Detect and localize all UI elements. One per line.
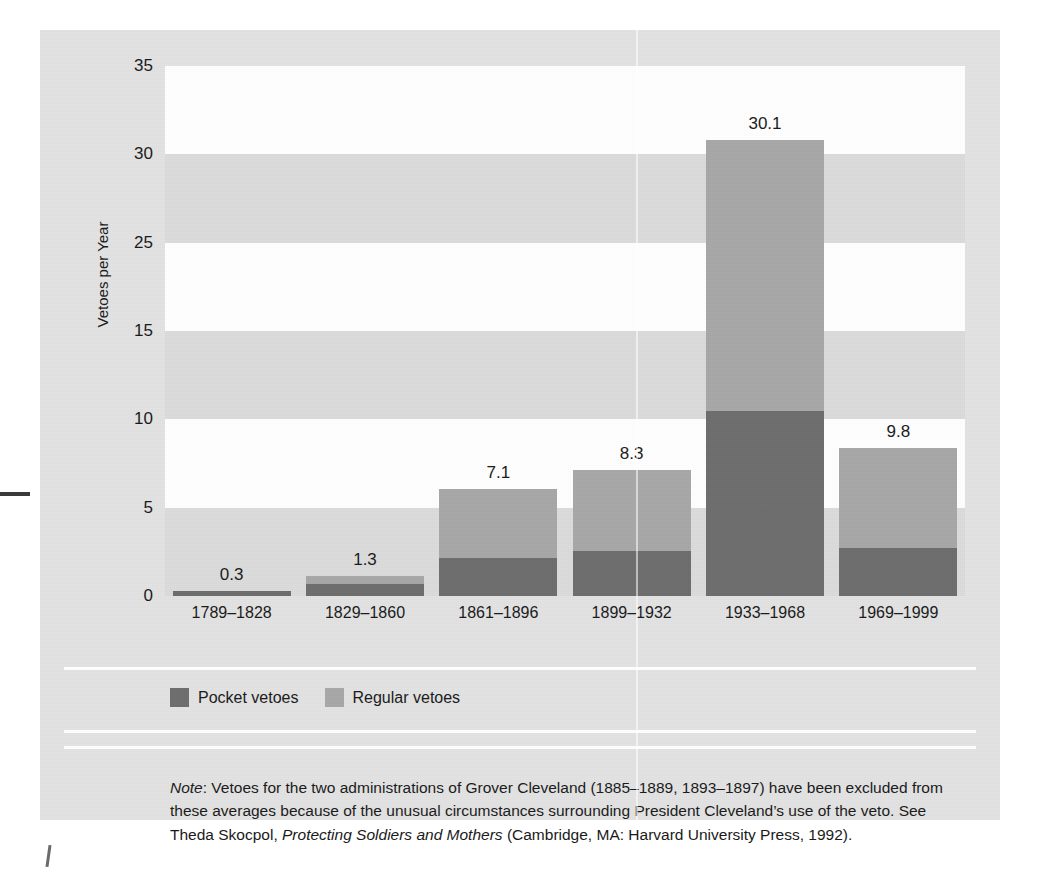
note-lead-label: Note — [170, 779, 203, 796]
y-tick-label: 30 — [93, 144, 153, 164]
background-band — [165, 66, 965, 154]
y-tick-label: 35 — [93, 56, 153, 76]
bar-segment-regular — [439, 489, 557, 559]
scan-seam — [636, 30, 638, 820]
x-axis-category-labels: 1789–18281829–18601861–18961899–19321933… — [165, 604, 965, 634]
legend-item[interactable]: Pocket vetoes — [170, 688, 299, 707]
bar-group[interactable]: 1.3 — [306, 576, 424, 596]
legend-swatch — [325, 688, 344, 707]
bar-segment-regular — [839, 448, 957, 548]
bar-segment-pocket — [439, 558, 557, 596]
chart-legend: Pocket vetoesRegular vetoes — [170, 688, 460, 707]
bar-segment-pocket — [173, 591, 291, 596]
x-category-label: 1861–1896 — [458, 604, 538, 622]
bar-segment-pocket — [573, 551, 691, 596]
y-tick-label: 5 — [93, 498, 153, 518]
legend-label: Pocket vetoes — [198, 689, 299, 707]
figure-card: Vetoes per Year 353025151050 0.31.37.18.… — [40, 30, 1000, 820]
y-tick-label: 25 — [93, 233, 153, 253]
bar-group[interactable]: 7.1 — [439, 489, 557, 597]
plot-area: 353025151050 0.31.37.18.330.19.8 — [165, 66, 965, 596]
background-band — [165, 331, 965, 419]
y-tick-label: 15 — [93, 321, 153, 341]
background-band — [165, 154, 965, 242]
x-category-label: 1829–1860 — [325, 604, 405, 622]
bar-group[interactable]: 9.8 — [839, 448, 957, 596]
bar-segment-pocket — [706, 411, 824, 596]
bar-group[interactable]: 30.1 — [706, 140, 824, 596]
legend-label: Regular vetoes — [353, 689, 461, 707]
bar-total-label: 9.8 — [887, 422, 911, 442]
bar-segment-pocket — [306, 584, 424, 596]
x-category-label: 1969–1999 — [858, 604, 938, 622]
divider-above-legend — [64, 667, 976, 670]
figure-note: Note: Vetoes for the two administrations… — [170, 776, 960, 847]
divider-below-legend — [64, 730, 976, 733]
note-tail-text: (Cambridge, MA: Harvard University Press… — [503, 826, 853, 843]
x-category-label: 1933–1968 — [725, 604, 805, 622]
legend-item[interactable]: Regular vetoes — [325, 688, 461, 707]
bar-total-label: 7.1 — [487, 463, 511, 483]
bar-group[interactable]: 0.3 — [173, 591, 291, 596]
x-category-label: 1789–1828 — [192, 604, 272, 622]
legend-swatch — [170, 688, 189, 707]
bar-total-label: 8.3 — [620, 444, 644, 464]
bar-total-label: 0.3 — [220, 565, 244, 585]
note-book-title: Protecting Soldiers and Mothers — [282, 826, 503, 843]
x-axis-baseline — [165, 66, 965, 70]
y-tick-label: 0 — [93, 586, 153, 606]
bar-group[interactable]: 8.3 — [573, 470, 691, 596]
divider-above-note — [64, 746, 976, 749]
page-bottom-mark — [45, 845, 51, 867]
bar-segment-regular — [706, 140, 824, 411]
bar-segment-pocket — [839, 548, 957, 596]
background-band — [165, 243, 965, 331]
bar-segment-regular — [573, 470, 691, 550]
bar-total-label: 30.1 — [748, 114, 781, 134]
y-tick-label: 10 — [93, 409, 153, 429]
page-margin-tick — [0, 492, 30, 496]
bar-total-label: 1.3 — [353, 550, 377, 570]
bar-segment-regular — [306, 576, 424, 584]
x-category-label: 1899–1932 — [592, 604, 672, 622]
